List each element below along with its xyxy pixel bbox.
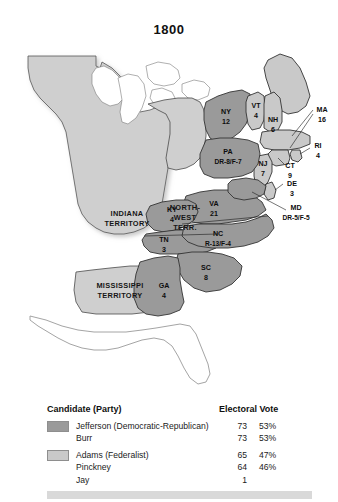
label-votes-pa: DR-8/F-7	[214, 158, 241, 165]
legend-row-pinckney: Pinckney 64 46%	[47, 462, 312, 474]
legend-candidate-name-burr: Burr	[76, 433, 219, 443]
label-votes-ny: 12	[222, 118, 230, 126]
label-mississippi-territory-line2: TERRITORY	[98, 291, 143, 300]
legend-pct-burr: 53%	[259, 433, 293, 443]
label-mississippi-territory-line1: MISSISSIPPI	[96, 281, 143, 290]
legend-row-jefferson: Jefferson (Democratic-Republican) 73 53%	[47, 421, 312, 433]
legend-votes-jay: 1	[219, 475, 259, 485]
legend-candidate-name-pinckney: Pinckney	[76, 462, 219, 472]
legend-swatch-burr	[47, 433, 69, 444]
label-votes-tn: 3	[162, 246, 166, 254]
legend-swatch-jefferson	[47, 421, 69, 432]
label-state-pa: PA	[223, 148, 232, 156]
label-votes-nh: 6	[271, 126, 275, 134]
label-votes-sc: 8	[204, 274, 208, 282]
legend-votes-pinckney: 64	[219, 462, 259, 472]
label-votes-de: 3	[290, 190, 294, 198]
electoral-map: INDIANA TERRITORY NORTH- WEST TERR. MISS…	[0, 44, 338, 396]
legend-votes-burr: 73	[219, 433, 259, 443]
label-state-ga: GA	[159, 282, 170, 290]
legend-candidate-name-adams: Adams (Federalist)	[76, 450, 219, 460]
legend-votes-jefferson: 73	[219, 421, 259, 431]
label-votes-ga: 4	[162, 292, 166, 300]
label-state-sc: SC	[201, 264, 211, 272]
label-state-nj: NJ	[258, 160, 267, 168]
label-indiana-territory-line2: TERRITORY	[105, 219, 150, 228]
label-votes-ct: 9	[288, 172, 292, 180]
label-votes-ky: 4	[170, 216, 174, 224]
label-state-ri: RI	[314, 142, 321, 150]
label-indiana-territory-line1: INDIANA	[111, 209, 144, 218]
legend-header-row: Candidate (Party) Electoral Vote	[47, 404, 312, 421]
legend-row-burr: Burr 73 53%	[47, 433, 312, 445]
label-northwest-terr-line3: TERR.	[173, 223, 197, 232]
label-state-nc: NC	[213, 230, 223, 238]
label-northwest-terr-line2: WEST	[174, 213, 197, 222]
map-legend: Candidate (Party) Electoral Vote Jeffers…	[47, 404, 312, 487]
label-state-ny: NY	[221, 108, 231, 116]
label-state-md: MD	[290, 204, 301, 212]
label-votes-md: DR-5/F-5	[282, 214, 309, 221]
label-votes-vt: 4	[254, 112, 258, 120]
label-votes-nj: 7	[261, 170, 265, 178]
label-state-ct: CT	[285, 162, 295, 170]
legend-row-adams: Adams (Federalist) 65 47%	[47, 450, 312, 462]
legend-row-jay: Jay 1	[47, 475, 312, 487]
legend-votes-adams: 65	[219, 450, 259, 460]
label-state-ky: KY	[167, 206, 177, 214]
legend-swatch-jay	[47, 475, 69, 486]
label-state-tn: TN	[159, 236, 168, 244]
label-votes-nc: R-13/F-4	[205, 240, 231, 247]
label-votes-ma: 16	[318, 116, 326, 124]
label-state-de: DE	[287, 180, 297, 188]
legend-header-candidate: Candidate (Party)	[47, 404, 219, 414]
label-state-va: VA	[209, 200, 218, 208]
label-state-ma: MA	[316, 106, 327, 114]
bottom-divider-bar	[47, 491, 312, 499]
label-state-vt: VT	[251, 102, 261, 110]
legend-swatch-pinckney	[47, 462, 69, 473]
label-votes-va: 21	[210, 210, 218, 218]
legend-candidate-name-jay: Jay	[76, 475, 219, 485]
label-votes-ri: 4	[316, 152, 320, 160]
legend-swatch-adams	[47, 450, 69, 461]
page-title: 1800	[0, 22, 338, 37]
legend-pct-adams: 47%	[259, 450, 293, 460]
label-state-nh: NH	[268, 116, 278, 124]
legend-pct-jefferson: 53%	[259, 421, 293, 431]
legend-pct-pinckney: 46%	[259, 462, 293, 472]
legend-candidate-name-jefferson: Jefferson (Democratic-Republican)	[76, 421, 219, 431]
legend-rows: Jefferson (Democratic-Republican) 73 53%…	[47, 421, 312, 487]
legend-header-electoral-vote: Electoral Vote	[219, 404, 312, 414]
